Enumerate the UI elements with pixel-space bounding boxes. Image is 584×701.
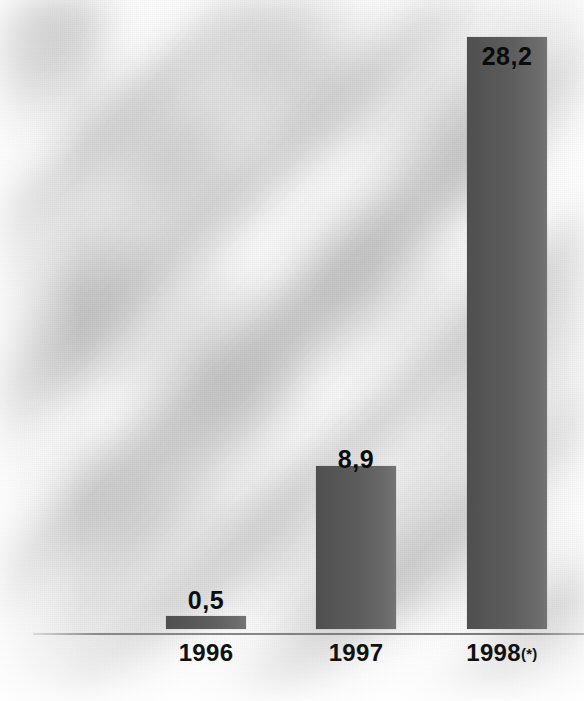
tick-label-text-1996: 1996 — [179, 639, 234, 666]
bar-1998 — [467, 37, 547, 629]
tick-label-footnote-marker: (*) — [521, 645, 538, 662]
x-axis-tick-label-1996: 1996 — [136, 641, 276, 665]
bar-1997 — [316, 466, 396, 629]
x-axis-tick-label-1997: 1997 — [286, 641, 426, 665]
tick-label-text-1998: 1998 — [466, 639, 521, 666]
bar-value-label-1997: 8,9 — [311, 447, 401, 472]
chart-canvas: 0,5 8,9 28,2 1996 1997 1998(*) Bar chart… — [0, 0, 584, 701]
tick-label-text-1997: 1997 — [329, 639, 384, 666]
bar-value-label-1996: 0,5 — [161, 588, 251, 613]
bar-value-label-1998: 28,2 — [462, 44, 552, 69]
x-axis-tick-label-1998: 1998(*) — [432, 641, 572, 665]
x-axis-baseline — [33, 633, 584, 635]
bar-chart-plot-area: 0,5 8,9 28,2 1996 1997 1998(*) — [0, 0, 584, 701]
bar-1996 — [166, 616, 246, 629]
